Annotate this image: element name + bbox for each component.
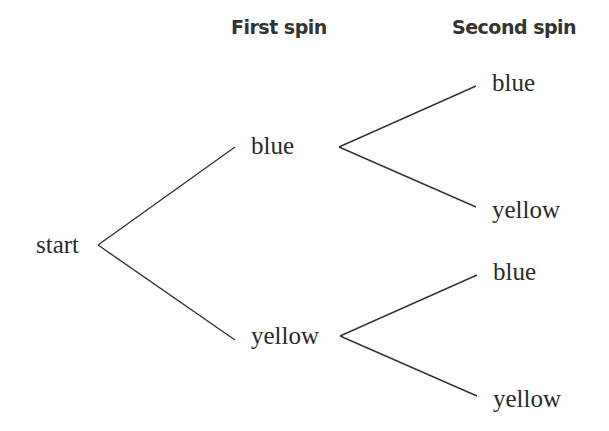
branch-yellow-blue [340, 275, 477, 336]
branch-blue-blue [339, 86, 476, 147]
header-first-spin: First spin [231, 16, 327, 38]
branch-yellow-yellow [340, 336, 477, 396]
branch-start-blue [98, 147, 235, 245]
branch-start-yellow [98, 245, 235, 340]
node-start: start [36, 232, 79, 257]
branch-blue-yellow [339, 147, 476, 207]
node-yellow-blue: blue [493, 259, 536, 284]
header-second-spin: Second spin [452, 16, 576, 38]
node-blue-blue: blue [492, 70, 535, 95]
tree-diagram: First spin Second spin start blue yellow… [0, 0, 609, 431]
node-first-yellow: yellow [251, 323, 319, 348]
node-yellow-yellow: yellow [493, 386, 561, 411]
node-blue-yellow: yellow [492, 197, 560, 222]
node-first-blue: blue [251, 133, 294, 158]
